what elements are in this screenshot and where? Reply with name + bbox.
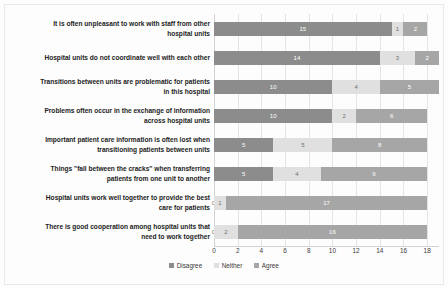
- x-tick-label-18: 18: [424, 247, 431, 254]
- category-label: Hospital units do not coordinate well wi…: [8, 43, 210, 72]
- legend-item[interactable]: Disagree: [169, 262, 202, 269]
- x-tick-label-10: 10: [329, 247, 336, 254]
- chart-legend: DisagreeNeitherAgree: [0, 262, 448, 269]
- bar-segment-neither: 1: [392, 22, 404, 36]
- bar-segment-neither: 3: [380, 51, 416, 65]
- x-tick-label-8: 8: [307, 247, 311, 254]
- bar-track: 0117: [214, 196, 439, 210]
- bar-segment-agree: 17: [226, 196, 427, 210]
- category-label: Things "fall between the cracks" when tr…: [8, 159, 210, 188]
- bar-rows: 151214321045102655854901170216: [214, 14, 439, 246]
- bar-row: 0216: [214, 217, 439, 246]
- bar-segment-neither: 4: [273, 167, 320, 181]
- bar-segment-disagree: 10: [214, 80, 332, 94]
- category-label: Important patient care information is of…: [8, 130, 210, 159]
- bar-segment-disagree: 15: [214, 22, 392, 36]
- bar-segment-agree: 8: [332, 138, 427, 152]
- bar-segment-agree: 9: [321, 167, 428, 181]
- x-tick-label-0: 0: [212, 247, 216, 254]
- category-label: There is good cooperation among hospital…: [8, 217, 210, 246]
- category-label: Problems often occur in the exchange of …: [8, 101, 210, 130]
- x-tick-label-12: 12: [353, 247, 360, 254]
- legend-item[interactable]: Agree: [254, 262, 279, 269]
- legend-swatch-icon: [169, 263, 174, 268]
- bar-track: 1026: [214, 109, 439, 123]
- x-tick-label-14: 14: [376, 247, 383, 254]
- bar-segment-agree: 6: [356, 109, 427, 123]
- bar-segment-agree: 5: [380, 80, 439, 94]
- bar-segment-disagree: 5: [214, 138, 273, 152]
- bar-track: 0216: [214, 225, 439, 239]
- legend-label: Agree: [262, 262, 279, 269]
- bar-row: 0117: [214, 188, 439, 217]
- bar-segment-disagree: 10: [214, 109, 332, 123]
- category-label: Transitions between units are problemati…: [8, 72, 210, 101]
- legend-item[interactable]: Neither: [214, 262, 242, 269]
- legend-label: Disagree: [177, 262, 203, 269]
- bar-segment-agree: 2: [415, 51, 439, 65]
- bar-track: 549: [214, 167, 439, 181]
- x-tick-label-4: 4: [260, 247, 264, 254]
- bar-segment-neither: 2: [332, 109, 356, 123]
- legend-swatch-icon: [214, 263, 219, 268]
- bar-segment-agree: 16: [238, 225, 427, 239]
- category-label: Hospital units work well together to pro…: [8, 188, 210, 217]
- bar-row: 558: [214, 130, 439, 159]
- bar-track: 1512: [214, 22, 439, 36]
- bar-segment-neither: 1: [214, 196, 226, 210]
- bar-track: 1432: [214, 51, 439, 65]
- bar-row: 1026: [214, 101, 439, 130]
- plot-area: 151214321045102655854901170216: [214, 14, 439, 246]
- x-axis-ticks: 024681012141618: [214, 246, 439, 260]
- bar-track: 558: [214, 138, 439, 152]
- bar-segment-neither: 4: [332, 80, 379, 94]
- bar-segment-disagree: 5: [214, 167, 273, 181]
- legend-swatch-icon: [254, 263, 259, 268]
- legend-label: Neither: [222, 262, 243, 269]
- category-label: It is often unpleasant to work with staf…: [8, 14, 210, 43]
- x-tick-label-16: 16: [400, 247, 407, 254]
- bar-track: 1045: [214, 80, 439, 94]
- bar-segment-agree: 2: [403, 22, 427, 36]
- bar-segment-neither: 2: [214, 225, 238, 239]
- bar-row: 1512: [214, 14, 439, 43]
- bar-segment-neither: 5: [273, 138, 332, 152]
- x-tick-label-2: 2: [236, 247, 240, 254]
- bar-segment-disagree: 14: [214, 51, 380, 65]
- bar-row: 549: [214, 159, 439, 188]
- x-tick-label-6: 6: [283, 247, 287, 254]
- bar-row: 1432: [214, 43, 439, 72]
- bar-row: 1045: [214, 72, 439, 101]
- stacked-bar-chart: It is often unpleasant to work with staf…: [0, 0, 448, 289]
- category-axis-labels: It is often unpleasant to work with staf…: [8, 14, 210, 246]
